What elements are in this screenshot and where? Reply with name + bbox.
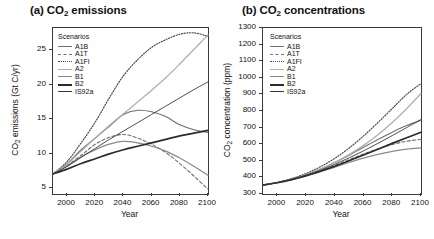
y-tick-mark xyxy=(49,187,52,188)
legend-item-a2: A2 xyxy=(58,65,93,73)
y-tick-mark xyxy=(49,84,52,85)
legend-item-a1fi: A1FI xyxy=(58,58,93,66)
legend-item-b2: B2 xyxy=(58,80,93,88)
y-tick-mark xyxy=(49,118,52,119)
legend-label: A1T xyxy=(287,50,300,57)
x-tick-mark xyxy=(334,193,335,196)
y-tick-mark xyxy=(259,143,262,144)
y-tick-label: 600 xyxy=(228,138,256,147)
panel-a-legend: Scenarios A1BA1TA1FIA2B1B2IS92a xyxy=(58,33,93,95)
legend-swatch-is92a xyxy=(270,88,284,95)
legend-item-a1b: A1B xyxy=(270,43,305,51)
y-tick-label: 10 xyxy=(18,148,46,157)
legend-swatch-a1t xyxy=(58,50,72,57)
panel-b-legend: Scenarios A1BA1TA1FIA2B1B2IS92a xyxy=(270,33,305,95)
legend-swatch-a1b xyxy=(270,43,284,50)
y-tick-mark xyxy=(49,153,52,154)
y-tick-label: 400 xyxy=(228,171,256,180)
legend-label: B1 xyxy=(287,73,296,80)
panel-b-x-axis-label: Year xyxy=(262,209,420,219)
y-tick-mark xyxy=(259,193,262,194)
y-tick-label: 5 xyxy=(18,182,46,191)
legend-label: B2 xyxy=(75,80,84,87)
x-tick-label: 2000 xyxy=(260,198,292,207)
x-tick-label: 2020 xyxy=(78,198,110,207)
panel-a-x-axis-label: Year xyxy=(52,209,207,219)
y-tick-mark xyxy=(259,27,262,28)
legend-swatch-b2 xyxy=(270,80,284,87)
y-tick-label: 1200 xyxy=(228,39,256,48)
series-line-a1b xyxy=(263,120,421,185)
y-tick-label: 1300 xyxy=(228,22,256,31)
x-tick-label: 2020 xyxy=(289,198,321,207)
x-tick-label: 2100 xyxy=(404,198,434,207)
legend-item-a1b: A1B xyxy=(58,43,93,51)
x-tick-label: 2040 xyxy=(318,198,350,207)
y-tick-label: 20 xyxy=(18,79,46,88)
legend-swatch-a2 xyxy=(270,65,284,72)
y-tick-label: 1000 xyxy=(228,72,256,81)
legend-swatch-b2 xyxy=(58,80,72,87)
y-tick-label: 700 xyxy=(228,122,256,131)
legend-title: Scenarios xyxy=(58,33,93,40)
legend-swatch-a1fi xyxy=(58,58,72,65)
legend-label: B1 xyxy=(75,73,84,80)
legend-item-is92a: IS92a xyxy=(58,88,93,96)
panel-co2-emissions: (a) CO2 emissions CO2 emissions (Gt C/yr… xyxy=(0,0,214,239)
legend-label: B2 xyxy=(287,80,296,87)
x-tick-mark xyxy=(179,193,180,196)
legend-item-a1fi: A1FI xyxy=(270,58,305,66)
legend-label: A1FI xyxy=(75,58,90,65)
legend-label: IS92a xyxy=(287,88,305,95)
series-line-a1t xyxy=(263,139,421,185)
x-tick-mark xyxy=(420,193,421,196)
x-tick-label: 2060 xyxy=(135,198,167,207)
y-tick-label: 1100 xyxy=(228,55,256,64)
panel-b-title: (b) CO2 concentrations xyxy=(214,4,434,16)
y-tick-mark xyxy=(49,49,52,50)
series-line-a2 xyxy=(263,94,421,185)
legend-swatch-a2 xyxy=(58,65,72,72)
legend-item-a2: A2 xyxy=(270,65,305,73)
y-tick-mark xyxy=(259,110,262,111)
panel-co2-concentrations: (b) CO2 concentrations CO2 concentration… xyxy=(214,0,428,239)
x-tick-mark xyxy=(122,193,123,196)
legend-swatch-is92a xyxy=(58,88,72,95)
y-tick-label: 300 xyxy=(228,188,256,197)
legend-title: Scenarios xyxy=(270,33,305,40)
y-tick-mark xyxy=(259,127,262,128)
x-tick-label: 2060 xyxy=(347,198,379,207)
legend-item-b1: B1 xyxy=(270,73,305,81)
x-tick-mark xyxy=(66,193,67,196)
x-tick-mark xyxy=(151,193,152,196)
y-tick-label: 25 xyxy=(18,44,46,53)
y-tick-mark xyxy=(259,93,262,94)
legend-item-b2: B2 xyxy=(270,80,305,88)
series-line-a1fi xyxy=(263,84,421,185)
x-tick-label: 2080 xyxy=(375,198,407,207)
series-line-a1t xyxy=(53,135,208,190)
y-tick-mark xyxy=(259,60,262,61)
legend-label: A1B xyxy=(287,43,300,50)
legend-item-is92a: IS92a xyxy=(270,88,305,96)
y-tick-mark xyxy=(259,160,262,161)
legend-swatch-a1b xyxy=(58,43,72,50)
y-tick-mark xyxy=(259,77,262,78)
x-tick-mark xyxy=(391,193,392,196)
x-tick-mark xyxy=(276,193,277,196)
legend-swatch-b1 xyxy=(58,73,72,80)
y-tick-label: 15 xyxy=(18,113,46,122)
x-tick-mark xyxy=(94,193,95,196)
y-tick-label: 800 xyxy=(228,105,256,114)
y-tick-label: 900 xyxy=(228,88,256,97)
legend-swatch-a1t xyxy=(270,50,284,57)
x-tick-label: 2000 xyxy=(50,198,82,207)
legend-label: A1B xyxy=(75,43,88,50)
legend-label: A1FI xyxy=(287,58,302,65)
x-tick-mark xyxy=(305,193,306,196)
legend-swatch-a1fi xyxy=(270,58,284,65)
y-tick-mark xyxy=(259,44,262,45)
x-tick-mark xyxy=(363,193,364,196)
legend-swatch-b1 xyxy=(270,73,284,80)
